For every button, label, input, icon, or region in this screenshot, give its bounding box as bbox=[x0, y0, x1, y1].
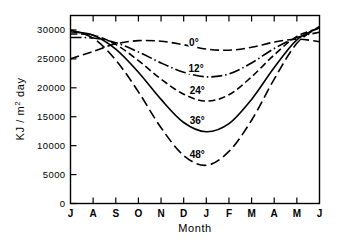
x-tick-label: A bbox=[271, 208, 278, 219]
x-tick-label: M bbox=[247, 208, 255, 219]
series-label-36deg: 36° bbox=[190, 115, 205, 126]
x-tick-label: F bbox=[226, 208, 232, 219]
chart-canvas: 050001000015000200002500030000 JASONDJFM… bbox=[0, 0, 338, 244]
y-tick-label: 30000 bbox=[37, 24, 65, 35]
series-label-0deg: 0° bbox=[189, 37, 199, 48]
series-labels: 0°0°12°12°24°24°36°36°48°48° bbox=[189, 37, 205, 161]
x-axis-title: Month bbox=[178, 222, 212, 234]
y-tick-label: 20000 bbox=[37, 82, 65, 93]
y-axis-title: KJ / m2 day bbox=[13, 77, 26, 140]
x-tick-label: A bbox=[90, 208, 97, 219]
x-axis-tick-labels: JASONDJFMAMJ bbox=[68, 208, 323, 219]
x-tick-label: O bbox=[135, 208, 143, 219]
svg-text:KJ / m2 day: KJ / m2 day bbox=[13, 77, 26, 140]
x-tick-label: N bbox=[157, 208, 164, 219]
series-label-12deg: 12° bbox=[189, 63, 204, 74]
y-axis-ticks bbox=[71, 30, 77, 204]
x-tick-label: D bbox=[180, 208, 187, 219]
y-tick-label: 10000 bbox=[37, 140, 65, 151]
chart-figure: 050001000015000200002500030000 JASONDJFM… bbox=[0, 0, 338, 244]
y-tick-label: 0 bbox=[60, 198, 66, 209]
x-tick-label: J bbox=[317, 208, 323, 219]
x-tick-label: M bbox=[293, 208, 301, 219]
x-tick-label: J bbox=[204, 208, 210, 219]
y-tick-label: 15000 bbox=[37, 111, 65, 122]
series-label-48deg: 48° bbox=[190, 149, 205, 160]
series-label-24deg: 24° bbox=[190, 85, 205, 96]
x-tick-label: J bbox=[68, 208, 74, 219]
y-tick-label: 25000 bbox=[37, 53, 65, 64]
y-tick-label: 5000 bbox=[43, 169, 66, 180]
y-axis-tick-labels: 050001000015000200002500030000 bbox=[37, 24, 65, 209]
x-tick-label: S bbox=[112, 208, 119, 219]
